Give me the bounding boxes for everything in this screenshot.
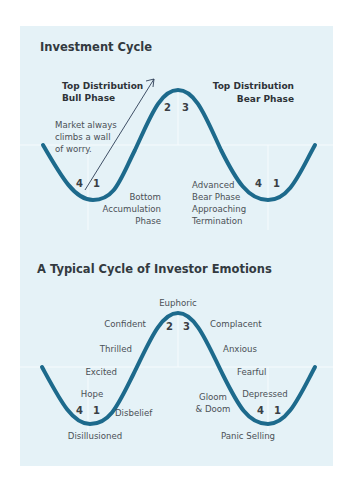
chart-title: A Typical Cycle of Investor Emotions: [37, 262, 272, 276]
stage-4-left: 4: [76, 405, 83, 416]
emotion-anxious: Anxious: [223, 344, 258, 354]
stage-4-right: 4: [257, 405, 264, 416]
stage-4-left: 4: [76, 178, 83, 189]
note-line-3: of worry.: [55, 144, 92, 154]
label-bear-phase: Bear Phase: [237, 94, 294, 104]
emotion-gloom: Gloom: [199, 392, 227, 402]
emotion-complacent: Complacent: [210, 319, 262, 329]
emotion-confident: Confident: [104, 319, 146, 329]
stage-1-left: 1: [93, 178, 100, 189]
chart-title: Investment Cycle: [40, 40, 152, 54]
stage-4-right: 4: [255, 178, 262, 189]
label-bottom: Bottom: [129, 192, 161, 202]
label-phase: Phase: [135, 216, 161, 226]
emotion-fearful: Fearful: [237, 367, 266, 377]
label-top-distribution-bear: Top Distribution: [213, 81, 294, 91]
emotion-disillusioned: Disillusioned: [68, 431, 122, 441]
emotion-excited: Excited: [85, 367, 117, 377]
emotion-doom: & Doom: [196, 404, 231, 414]
stage-1-right: 1: [273, 178, 280, 189]
stage-1-left: 1: [93, 405, 100, 416]
emotion-euphoric: Euphoric: [159, 298, 197, 308]
label-bull-phase: Bull Phase: [62, 93, 115, 103]
investment-cycle-chart: Investment Cycle Top Distribution Bull P…: [20, 40, 333, 230]
label-accumulation: Accumulation: [102, 204, 161, 214]
emotion-depressed: Depressed: [242, 389, 288, 399]
stage-1-right: 1: [274, 405, 281, 416]
label-termination: Termination: [191, 216, 242, 226]
stage-3-peak: 3: [182, 102, 189, 113]
note-line-2: climbs a wall: [55, 132, 111, 142]
stage-3-peak: 3: [183, 321, 190, 332]
label-advanced: Advanced: [192, 180, 234, 190]
cycle-diagrams: Investment Cycle Top Distribution Bull P…: [0, 0, 350, 489]
emotion-panic-selling: Panic Selling: [221, 431, 275, 441]
label-bear-phase-2: Bear Phase: [192, 192, 240, 202]
emotion-disbelief: Disbelief: [115, 408, 153, 418]
emotion-hope: Hope: [81, 389, 103, 399]
label-top-distribution-bull: Top Distribution: [62, 81, 143, 91]
note-line-1: Market always: [55, 120, 117, 130]
label-approaching: Approaching: [192, 204, 246, 214]
stage-2-peak: 2: [164, 102, 171, 113]
emotion-thrilled: Thrilled: [99, 344, 132, 354]
investor-emotions-chart: A Typical Cycle of Investor Emotions Eup…: [20, 262, 333, 441]
stage-2-peak: 2: [166, 321, 173, 332]
